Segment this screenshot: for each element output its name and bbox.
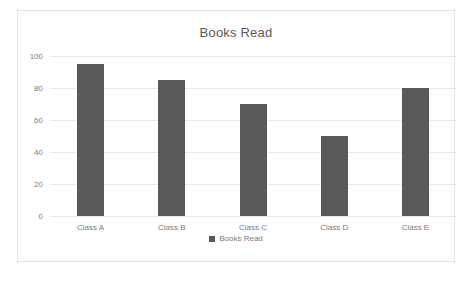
chart-title: Books Read: [18, 25, 454, 40]
x-axis-tick-label: Class D: [320, 223, 348, 232]
bar-series: Class AClass BClass CClass DClass E: [50, 56, 456, 216]
bar[interactable]: [321, 136, 348, 216]
y-axis-tick-label: 60: [34, 116, 43, 125]
bar-slot: Class D: [294, 56, 375, 216]
bar[interactable]: [402, 88, 429, 216]
bar[interactable]: [240, 104, 267, 216]
bar-slot: Class B: [131, 56, 212, 216]
bar-slot: Class E: [375, 56, 456, 216]
bar[interactable]: [158, 80, 185, 216]
gridline: [50, 216, 456, 217]
x-axis-tick-label: Class E: [402, 223, 430, 232]
chart-frame: Books Read 020406080100 Class AClass BCl…: [17, 10, 455, 262]
x-axis-tick-label: Class C: [239, 223, 267, 232]
y-axis-tick-label: 100: [30, 52, 43, 61]
y-axis-tick-label: 80: [34, 84, 43, 93]
x-axis-tick-label: Class A: [77, 223, 104, 232]
bar-slot: Class C: [212, 56, 293, 216]
y-axis-tick-label: 20: [34, 180, 43, 189]
bar[interactable]: [77, 64, 104, 216]
x-axis-tick-label: Class B: [158, 223, 186, 232]
plot-area: 020406080100 Class AClass BClass CClass …: [50, 56, 456, 216]
y-axis-tick-label: 40: [34, 148, 43, 157]
bar-slot: Class A: [50, 56, 131, 216]
legend-label: Books Read: [219, 234, 263, 243]
chart-legend: Books Read: [18, 234, 454, 243]
y-axis-tick-label: 0: [39, 212, 43, 221]
legend-square-marker-icon: [209, 236, 215, 242]
